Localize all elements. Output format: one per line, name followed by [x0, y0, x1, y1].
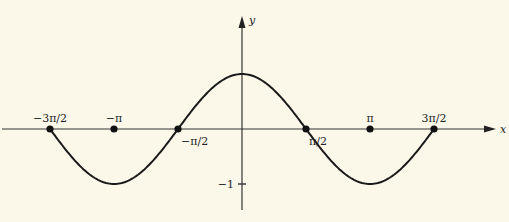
- x-tick-label: π/2: [309, 135, 327, 148]
- axis-point-marker: [110, 125, 117, 132]
- x-tick-label: 3π/2: [422, 112, 447, 125]
- x-tick-label: −π: [106, 112, 122, 125]
- axis-point-marker: [302, 125, 309, 132]
- cosine-chart: xy−1−3π/2−π−π/2π/2π3π/2: [0, 0, 509, 222]
- axis-point-marker: [174, 125, 181, 132]
- x-tick-label: −3π/2: [33, 112, 67, 125]
- x-tick-label: π: [366, 112, 373, 125]
- y-tick-label: −1: [218, 178, 234, 191]
- x-tick-label: −π/2: [181, 135, 208, 148]
- axis-point-marker: [366, 125, 373, 132]
- y-axis-arrow-icon: [239, 16, 246, 28]
- y-axis-label: y: [248, 14, 256, 27]
- labels-layer: xy−1−3π/2−π−π/2π/2π3π/2: [33, 14, 507, 191]
- x-axis-label: x: [500, 123, 507, 136]
- x-axis-arrow-icon: [484, 126, 496, 133]
- axis-point-marker: [430, 125, 437, 132]
- axis-point-marker: [46, 125, 53, 132]
